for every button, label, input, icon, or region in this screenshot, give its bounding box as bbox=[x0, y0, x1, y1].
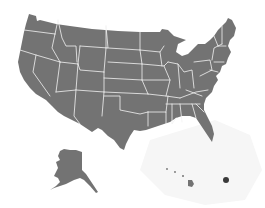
us-map bbox=[0, 0, 265, 208]
puerto-rico-marker bbox=[223, 177, 229, 183]
background-haze bbox=[140, 120, 262, 205]
alaska bbox=[50, 149, 98, 193]
us-map-svg bbox=[0, 0, 265, 208]
